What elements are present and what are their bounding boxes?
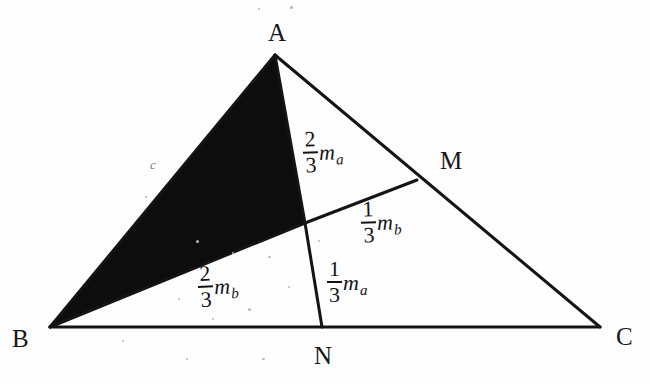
fraction-one-third: 1 3 xyxy=(327,258,342,307)
median-symbol-base: m xyxy=(213,274,230,300)
fraction-denominator: 3 xyxy=(327,283,342,306)
median-symbol-base: m xyxy=(319,140,336,166)
vertex-label-n: N xyxy=(314,343,332,368)
fraction-one-third: 1 3 xyxy=(360,198,377,247)
gn-segment-label: 1 3 ma xyxy=(327,258,366,307)
median-symbol-base: m xyxy=(343,270,359,295)
fraction-two-thirds: 2 3 xyxy=(197,262,215,312)
fraction-denominator: 3 xyxy=(198,288,214,312)
median-symbol: ma xyxy=(319,142,343,165)
median-gn-line xyxy=(305,223,322,327)
median-symbol-subscript: b xyxy=(231,285,239,301)
median-symbol-base: m xyxy=(377,210,394,236)
fraction-two-thirds: 2 3 xyxy=(302,128,319,177)
ag-segment-label: 2 3 ma xyxy=(302,127,343,177)
fraction-denominator: 3 xyxy=(303,154,319,178)
fraction-numerator: 2 xyxy=(302,128,318,152)
vertex-label-m: M xyxy=(440,148,462,173)
median-symbol: mb xyxy=(213,275,238,298)
vertex-label-b: B xyxy=(12,326,29,351)
triangle-abg-shaded-region xyxy=(50,55,305,327)
fraction-numerator: 1 xyxy=(327,258,342,281)
triangle-median-figure: A B C M N c 2 3 ma 1 3 mb 1 3 xyxy=(0,0,650,385)
median-symbol: mb xyxy=(377,212,401,235)
bg-segment-label: 2 3 mb xyxy=(197,261,239,312)
median-symbol-subscript: a xyxy=(336,152,344,168)
median-symbol-subscript: a xyxy=(360,282,368,298)
gm-segment-label: 1 3 mb xyxy=(360,197,401,247)
vertex-label-a: A xyxy=(268,20,286,45)
vertex-label-c: C xyxy=(616,324,633,349)
side-label-c: c xyxy=(150,158,156,171)
side-ac-line xyxy=(275,55,600,327)
fraction-denominator: 3 xyxy=(361,224,377,248)
fraction-numerator: 2 xyxy=(197,262,213,286)
fraction-numerator: 1 xyxy=(360,198,376,222)
median-symbol-subscript: b xyxy=(394,222,402,238)
median-symbol: ma xyxy=(343,272,366,294)
figure-canvas xyxy=(0,0,650,385)
